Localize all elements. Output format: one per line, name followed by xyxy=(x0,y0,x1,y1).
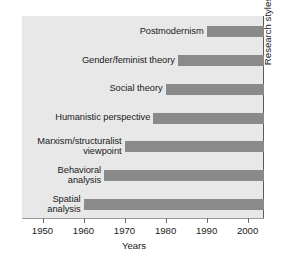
category-label: Behavioral analysis xyxy=(58,165,101,186)
x-axis-title: Years xyxy=(0,240,268,251)
bar-chart-figure: PostmodernismGender/feminist theorySocia… xyxy=(0,0,298,269)
bar xyxy=(178,55,264,66)
category-label: Gender/feminist theory xyxy=(82,55,175,66)
category-label: Spatial analysis xyxy=(47,194,80,215)
bar xyxy=(125,141,264,152)
bar xyxy=(104,170,264,181)
x-tick-label: 1950 xyxy=(32,225,53,236)
x-tick xyxy=(166,218,167,223)
category-label: Humanistic perspective xyxy=(55,112,150,123)
x-tick xyxy=(207,218,208,223)
x-tick xyxy=(84,218,85,223)
category-label: Social theory xyxy=(109,83,162,94)
x-tick xyxy=(248,218,249,223)
bar xyxy=(166,84,264,95)
x-axis-line xyxy=(22,218,264,219)
x-tick-label: 1960 xyxy=(73,225,94,236)
x-tick-label: 1980 xyxy=(155,225,176,236)
bar xyxy=(207,26,264,37)
y-axis-title: Research styles xyxy=(262,0,273,86)
bar xyxy=(153,113,264,124)
category-label: Marxism/structuralist viewpoint xyxy=(37,136,121,157)
x-tick-label: 1990 xyxy=(196,225,217,236)
x-tick xyxy=(125,218,126,223)
bar xyxy=(84,199,264,210)
category-label: Postmodernism xyxy=(140,26,204,37)
x-tick-label: 1970 xyxy=(114,225,135,236)
x-tick xyxy=(43,218,44,223)
x-tick-label: 2000 xyxy=(237,225,258,236)
